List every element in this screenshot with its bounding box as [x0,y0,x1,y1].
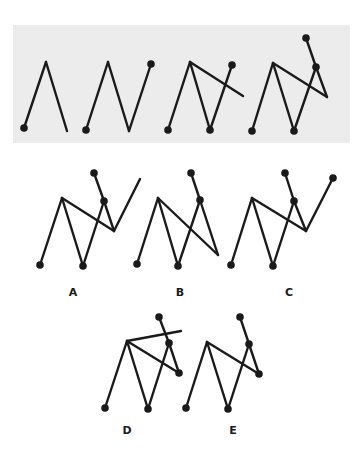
dot-node-icon [147,60,155,68]
dot-node-icon [236,313,244,321]
dot-node-icon [82,126,90,134]
figure-segment [186,342,207,408]
figure-segment [285,173,294,201]
option-figure-b[interactable] [133,169,218,270]
dot-node-icon [228,61,236,69]
dot-node-icon [269,262,277,270]
sequence-panel-background [13,25,350,143]
option-label-c[interactable]: C [285,287,293,298]
dot-node-icon [281,169,289,177]
dot-node-icon [164,126,172,134]
figure-segment [114,179,140,231]
figure-segment [228,344,249,409]
figure-segment [137,198,158,264]
dot-node-icon [155,313,163,321]
dot-node-icon [302,34,310,42]
dot-node-icon [290,127,298,135]
option-label-a[interactable]: A [69,287,78,298]
dot-node-icon [175,369,183,377]
option-figure-d[interactable] [101,313,183,413]
option-figure-e[interactable] [182,313,263,413]
dot-node-icon [312,63,320,71]
figure-segment [159,317,169,343]
figure-segment [148,343,169,409]
dot-node-icon [329,174,337,182]
option-figure-c[interactable] [227,169,337,270]
figure-segment [231,198,252,265]
option-figure-a[interactable] [36,169,140,270]
dot-node-icon [224,405,232,413]
dot-node-icon [174,262,182,270]
dot-node-icon [255,370,263,378]
dot-node-icon [20,124,28,132]
dot-node-icon [79,262,87,270]
dot-node-icon [290,197,298,205]
dot-node-icon [227,261,235,269]
dot-node-icon [206,126,214,134]
dot-node-icon [144,405,152,413]
figure-segment [83,201,104,266]
figure-segment [306,178,333,231]
dot-node-icon [133,260,141,268]
dot-node-icon [248,127,256,135]
figure-segment [273,201,294,266]
dot-node-icon [187,169,195,177]
option-label-d[interactable]: D [122,425,131,436]
figure-segment [240,317,249,344]
dot-node-icon [90,169,98,177]
dot-node-icon [36,261,44,269]
dot-node-icon [165,339,173,347]
puzzle-canvas [0,0,361,451]
dot-node-icon [101,404,109,412]
figure-segment [127,331,181,341]
dot-node-icon [196,196,204,204]
dot-node-icon [182,404,190,412]
figure-segment [94,173,104,201]
figure-segment [178,200,200,266]
dot-node-icon [245,340,253,348]
figure-segment [105,341,127,408]
figure-segment [191,173,200,200]
option-label-b[interactable]: B [176,287,184,298]
dot-node-icon [100,197,108,205]
option-label-e[interactable]: E [229,425,237,436]
figure-segment [40,198,62,265]
